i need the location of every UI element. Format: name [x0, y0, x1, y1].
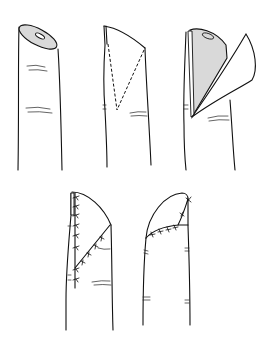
incision-line-left — [108, 44, 117, 110]
panel-step-5 — [143, 193, 191, 325]
incision-line-right — [117, 50, 144, 110]
fingertip-flap-illustration — [0, 0, 274, 344]
suture-line-diagonal — [75, 225, 110, 268]
panel-step-2 — [103, 26, 151, 167]
suture-stitches — [73, 196, 104, 282]
panel-step-3 — [184, 29, 256, 170]
panel-step-1 — [16, 20, 62, 170]
panel-step-4 — [66, 192, 113, 330]
suture-line-curve — [146, 199, 188, 238]
